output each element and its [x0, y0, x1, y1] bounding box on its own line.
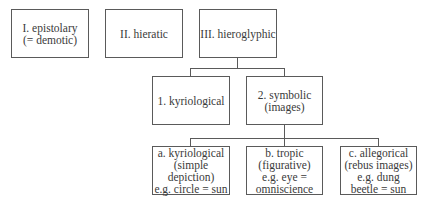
node-kyriological: 1. kyriological	[152, 76, 230, 125]
node-label: I. epistolary (= demotic)	[23, 22, 78, 46]
node-label: III. hieroglyphic	[200, 28, 275, 40]
connector-hieroglyphic-stem	[237, 57, 238, 68]
node-a-kyriological: a. kyriological (simple depiction) e.g. …	[152, 146, 230, 195]
node-label: b. tropic (figurative) e.g. eye = omnisc…	[256, 147, 313, 195]
node-label: 2. symbolic (images)	[258, 89, 312, 113]
node-symbolic: 2. symbolic (images)	[246, 76, 323, 125]
node-c-allegorical: c. allegorical (rebus images) e.g. dung …	[340, 146, 417, 195]
node-hieratic: II. hieratic	[105, 9, 183, 58]
node-label: II. hieratic	[120, 28, 168, 40]
connector-symbolic-stem	[284, 124, 285, 138]
node-hieroglyphic: III. hieroglyphic	[199, 9, 277, 58]
node-b-tropic: b. tropic (figurative) e.g. eye = omnisc…	[246, 146, 323, 195]
node-epistolary: I. epistolary (= demotic)	[11, 9, 89, 58]
connector-level1-bar	[190, 68, 285, 69]
node-label: a. kyriological (simple depiction) e.g. …	[154, 147, 227, 195]
node-label: c. allegorical (rebus images) e.g. dung …	[344, 147, 412, 195]
node-label: 1. kyriological	[157, 95, 224, 107]
